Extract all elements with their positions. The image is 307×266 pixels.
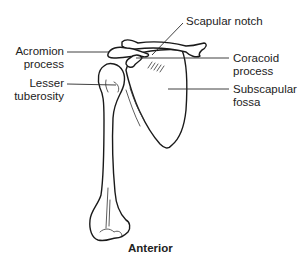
label-lesser-line1: Lesser	[14, 77, 64, 90]
label-scapular-notch: Scapular notch	[186, 15, 263, 28]
label-coracoid-process: Coracoid process	[233, 52, 279, 77]
label-subscapular-fossa: Subscapular fossa	[233, 83, 297, 108]
label-acromion-line2: process	[15, 58, 64, 71]
label-acromion-line1: Acromion	[15, 45, 64, 58]
label-subscapular-line2: fossa	[233, 96, 297, 109]
label-lesser-line2: tuberosity	[14, 90, 64, 103]
label-acromion-process: Acromion process	[15, 45, 64, 70]
label-coracoid-line1: Coracoid	[233, 52, 279, 65]
label-lesser-tuberosity: Lesser tuberosity	[14, 77, 64, 102]
view-caption: Anterior	[128, 242, 173, 254]
label-coracoid-line2: process	[233, 65, 279, 78]
shoulder-anatomy-drawing	[0, 0, 307, 266]
label-subscapular-line1: Subscapular	[233, 83, 297, 96]
